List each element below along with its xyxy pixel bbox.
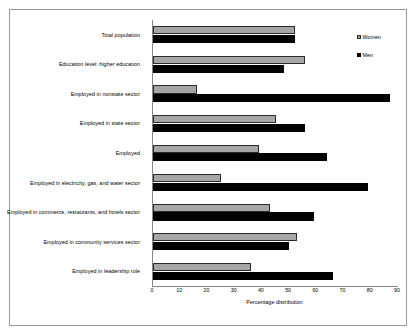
bar-men: [153, 272, 333, 280]
bar-men: [153, 212, 314, 220]
legend-label-men: Men: [363, 52, 374, 58]
legend-swatch-women-icon: [357, 35, 361, 39]
category-label: Education level: higher education: [0, 61, 143, 68]
x-axis-title: Percentage distribution: [152, 299, 397, 305]
bar-women: [153, 263, 251, 271]
category-label: Employed in community services sector: [0, 238, 143, 245]
bar-women: [153, 174, 221, 182]
bar-men: [153, 94, 390, 102]
category-label: Employed: [0, 150, 143, 157]
category-label: Employed in nonstate sector: [0, 91, 143, 98]
bar-men: [153, 153, 327, 161]
x-tick-label: 0: [151, 287, 154, 293]
x-tick-label: 10: [176, 287, 182, 293]
bar-men: [153, 183, 368, 191]
category-label: Employed in state sector: [0, 120, 143, 127]
x-tick-label: 70: [340, 287, 346, 293]
bar-men: [153, 124, 305, 132]
x-tick-label: 90: [394, 287, 400, 293]
bar-men: [153, 65, 284, 73]
category-label: Employed in electricity, gas, and water …: [0, 179, 143, 186]
category-label: Employed in commerce, restaurants, and h…: [0, 209, 143, 216]
x-tick-label: 40: [258, 287, 264, 293]
x-tick-label: 50: [285, 287, 291, 293]
x-tick-label: 80: [367, 287, 373, 293]
bar-men: [153, 242, 289, 250]
x-tick-label: 30: [231, 287, 237, 293]
chart-legend: Women Men: [357, 33, 409, 69]
legend-item-women: Women: [357, 33, 409, 40]
x-tick-label: 60: [312, 287, 318, 293]
bar-men: [153, 35, 295, 43]
legend-label-women: Women: [363, 34, 381, 40]
bar-women: [153, 56, 305, 64]
bar-women: [153, 145, 259, 153]
category-label: Total population: [0, 31, 143, 38]
bar-women: [153, 204, 270, 212]
category-label: Employed in leadership role: [0, 268, 143, 275]
legend-item-men: Men: [357, 51, 409, 58]
bar-women: [153, 233, 297, 241]
bar-women: [153, 26, 295, 34]
x-tick-label: 20: [203, 287, 209, 293]
legend-swatch-men-icon: [357, 53, 361, 57]
bar-women: [153, 115, 276, 123]
bar-women: [153, 85, 197, 93]
value-axis-tick-labels: 0102030405060708090: [152, 287, 402, 299]
category-axis-labels: Total populationEducation level: higher …: [0, 20, 143, 286]
bar-chart-figure: Total populationEducation level: higher …: [0, 0, 416, 334]
